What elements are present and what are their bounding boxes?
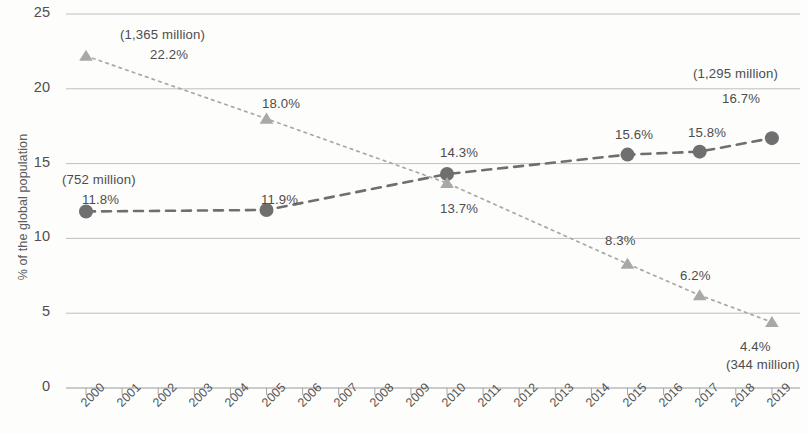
ann-15-8-percent: 15.8% — [688, 125, 726, 140]
data-point-marker-triangle — [693, 289, 707, 300]
data-point-marker-triangle — [79, 50, 93, 61]
data-point-marker-triangle — [260, 113, 274, 124]
data-point-marker-circle — [765, 131, 779, 145]
ann-13-7-percent: 13.7% — [440, 201, 478, 216]
y-axis-tick-label: 10 — [10, 228, 50, 244]
ann-16-7-percent: 16.7% — [722, 91, 760, 106]
data-point-marker-triangle — [765, 316, 779, 327]
y-axis-tick-label: 5 — [10, 303, 50, 319]
ann-15-6-percent: 15.6% — [615, 127, 653, 142]
series-lines-group — [86, 56, 772, 322]
y-axis-tick-label: 15 — [10, 154, 50, 170]
y-axis-tick-label: 20 — [10, 79, 50, 95]
data-point-marker-triangle — [621, 258, 635, 269]
y-axis-title: % of the global population — [16, 92, 30, 322]
chart-plot-svg — [0, 0, 808, 434]
ann-11-9-percent: 11.9% — [261, 192, 298, 207]
series-line-triangle — [86, 56, 772, 322]
series-markers-group — [79, 50, 779, 327]
ann-8-3-percent: 8.3% — [605, 233, 636, 248]
y-axis-tick-label: 25 — [10, 4, 50, 20]
ann-6-2-percent: 6.2% — [680, 268, 711, 283]
series-line-circle — [86, 138, 772, 211]
y-axis-tick-label: 0 — [10, 378, 50, 394]
ann-1295-million: (1,295 million) — [693, 66, 778, 81]
chart-container: % of the global population 0510152025 20… — [0, 0, 808, 434]
ann-1365-million: (1,365 million) — [120, 27, 205, 42]
ann-11-8-percent: 11.8% — [82, 192, 119, 207]
ann-14-3-percent: 14.3% — [440, 145, 478, 160]
data-point-marker-circle — [693, 145, 707, 159]
ann-4-4-percent: 4.4% — [740, 339, 771, 354]
data-point-marker-circle — [621, 148, 635, 162]
ann-752-million: (752 million) — [62, 172, 136, 187]
gridlines-group — [66, 14, 800, 388]
ann-344-million: (344 million) — [726, 357, 800, 372]
ann-22-2-percent: 22.2% — [150, 47, 188, 62]
ann-18-0-percent: 18.0% — [262, 96, 300, 111]
